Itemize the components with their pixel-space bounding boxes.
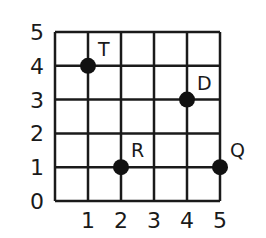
x-tick-label: 4 — [180, 208, 194, 233]
point-label: Q — [230, 139, 245, 161]
point-q: Q — [212, 139, 245, 175]
point-marker — [212, 159, 228, 175]
point-r: R — [113, 139, 144, 175]
y-tick-label: 5 — [30, 20, 44, 45]
y-tick-label: 1 — [30, 155, 44, 180]
point-marker — [113, 159, 129, 175]
x-tick-label: 1 — [81, 208, 95, 233]
y-tick-label: 2 — [30, 121, 44, 146]
x-tick-label: 2 — [114, 208, 128, 233]
point-label: T — [97, 38, 110, 60]
x-tick-label: 5 — [213, 208, 227, 233]
point-label: D — [197, 72, 212, 94]
x-tick-label: 3 — [147, 208, 161, 233]
y-tick-label: 0 — [30, 189, 44, 214]
x-axis-ticks: 12345 — [81, 208, 227, 233]
grid-lines — [55, 32, 220, 201]
y-axis-ticks: 012345 — [30, 20, 44, 214]
y-tick-label: 3 — [30, 88, 44, 113]
point-t: T — [80, 38, 110, 74]
point-marker — [80, 58, 96, 74]
point-d: D — [179, 72, 212, 108]
point-label: R — [131, 139, 144, 161]
y-tick-label: 4 — [30, 54, 44, 79]
coordinate-grid-chart: 012345 12345 TDRQ — [0, 0, 266, 238]
point-marker — [179, 92, 195, 108]
